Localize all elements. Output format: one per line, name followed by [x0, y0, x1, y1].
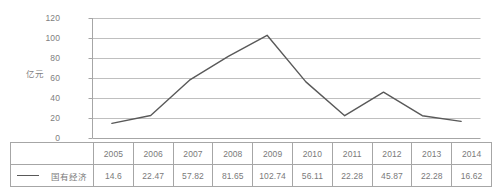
table-row-header: 2005 2006 2007 2008 2009 2010 2011 2012 … — [11, 143, 492, 165]
table-row: 国有经济 14.6 22.47 57.82 81.65 102.74 56.11… — [11, 165, 492, 187]
table-value-2011: 22.28 — [332, 165, 372, 187]
table-value-2005: 14.6 — [94, 165, 134, 187]
legend-cell: 国有经济 — [11, 165, 94, 187]
table-value-2014: 16.62 — [452, 165, 492, 187]
table-header-2008: 2008 — [213, 143, 253, 165]
legend-label: 国有经济 — [51, 170, 87, 182]
data-table: 2005 2006 2007 2008 2009 2010 2011 2012 … — [10, 142, 492, 187]
table-header-2014: 2014 — [452, 143, 492, 165]
line-chart: 120 100 80 60 40 20 0 亿元 — [0, 0, 494, 143]
table-value-2009: 102.74 — [253, 165, 293, 187]
table-value-2012: 45.87 — [372, 165, 412, 187]
table-header-2005: 2005 — [94, 143, 134, 165]
plot-svg — [0, 0, 494, 143]
y-axis-ticks — [89, 19, 93, 139]
table-value-2008: 81.65 — [213, 165, 253, 187]
table-header-2006: 2006 — [133, 143, 173, 165]
table-value-2006: 22.47 — [133, 165, 173, 187]
gridlines — [93, 19, 481, 139]
table-header-2007: 2007 — [173, 143, 213, 165]
series-line-guoyoujingji — [112, 35, 461, 123]
table-value-2013: 22.28 — [412, 165, 452, 187]
table-value-2007: 57.82 — [173, 165, 213, 187]
table-corner-blank — [11, 143, 94, 165]
table-header-2010: 2010 — [292, 143, 332, 165]
chart-with-data-table: 120 100 80 60 40 20 0 亿元 2005 2006 2007 … — [0, 0, 494, 190]
table-header-2012: 2012 — [372, 143, 412, 165]
table-header-2009: 2009 — [253, 143, 293, 165]
line-swatch-icon — [17, 175, 39, 176]
table-value-2010: 56.11 — [292, 165, 332, 187]
table-header-2013: 2013 — [412, 143, 452, 165]
table-header-2011: 2011 — [332, 143, 372, 165]
